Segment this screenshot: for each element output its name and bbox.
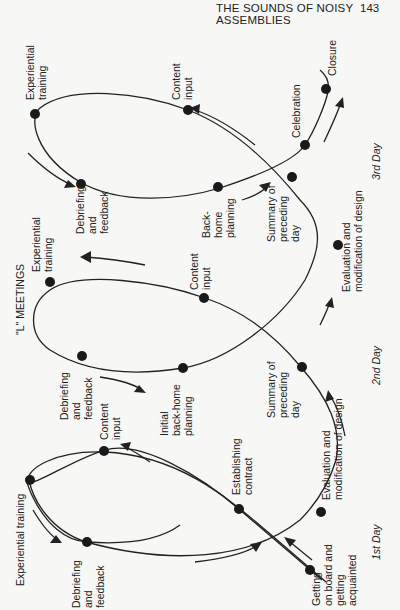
stage-dot bbox=[213, 182, 223, 192]
svg-text:and: and bbox=[86, 216, 98, 234]
stage-label-evaluation-2: Evaluation and modification of design bbox=[320, 398, 344, 500]
stage-dots bbox=[25, 84, 343, 575]
stage-label-experiential-training-2: Experiential training bbox=[30, 217, 54, 272]
flow-arrows bbox=[28, 97, 345, 562]
stage-dot bbox=[234, 504, 244, 514]
stage-label-closure: Closure bbox=[326, 40, 338, 76]
stage-label-experiential-training-3: Experiential training bbox=[24, 45, 48, 100]
svg-text:contract: contract bbox=[242, 458, 254, 495]
stage-dot bbox=[321, 84, 331, 94]
stage-dot bbox=[287, 172, 297, 182]
svg-text:day: day bbox=[289, 400, 301, 418]
svg-text:Experiential training: Experiential training bbox=[14, 494, 26, 586]
svg-text:Establishing: Establishing bbox=[230, 438, 242, 495]
arrow-head-icon bbox=[50, 535, 62, 543]
arrow-head-icon bbox=[250, 542, 262, 552]
arrow-icon bbox=[324, 102, 341, 142]
stage-dot bbox=[199, 293, 209, 303]
svg-text:Celebration: Celebration bbox=[290, 84, 302, 138]
stage-label-experiential-training-1: Experiential training bbox=[14, 494, 26, 586]
svg-text:modification of design: modification of design bbox=[352, 190, 364, 292]
svg-text:preceding: preceding bbox=[277, 372, 289, 418]
svg-text:and: and bbox=[70, 402, 82, 420]
arrow-icon bbox=[195, 110, 255, 145]
stage-label-content-input-1: Content input bbox=[98, 403, 122, 440]
l-meetings-diagram: "L" MEETINGS 1st Day 2nd Day 3rd Day Get… bbox=[0, 0, 400, 610]
svg-text:feedback: feedback bbox=[82, 377, 94, 420]
svg-text:feedback: feedback bbox=[94, 565, 106, 608]
stage-label-establishing-contract: Establishing contract bbox=[230, 438, 254, 495]
svg-text:training: training bbox=[42, 237, 54, 272]
svg-text:input: input bbox=[200, 267, 212, 290]
arrow-icon bbox=[195, 545, 258, 562]
svg-text:Getting: Getting bbox=[310, 572, 322, 606]
svg-text:and: and bbox=[82, 590, 94, 608]
svg-text:input: input bbox=[182, 77, 194, 100]
svg-text:input: input bbox=[110, 417, 122, 440]
arrow-head-icon bbox=[80, 251, 91, 263]
svg-text:Experiential: Experiential bbox=[24, 45, 36, 100]
stage-label-debriefing-2: Debriefing and feedback bbox=[58, 372, 94, 420]
stage-label-summary-2: Summary of preceding day bbox=[265, 361, 301, 418]
svg-text:training: training bbox=[36, 65, 48, 100]
svg-text:Debriefing: Debriefing bbox=[74, 186, 86, 234]
stage-dot bbox=[183, 105, 193, 115]
svg-text:day: day bbox=[289, 224, 301, 242]
svg-text:Summary of: Summary of bbox=[265, 361, 277, 418]
stage-label-content-input-3: Content input bbox=[170, 63, 194, 100]
arrow-icon bbox=[85, 257, 145, 265]
svg-text:Content: Content bbox=[170, 63, 182, 100]
stage-label-celebration: Celebration bbox=[290, 84, 302, 138]
stage-label-debriefing-1: Debriefing and feedback bbox=[70, 560, 106, 608]
stage-dot bbox=[99, 446, 109, 456]
stage-label-initial-back-home-planning: Initial back-home planning bbox=[158, 384, 194, 436]
stage-dot bbox=[82, 537, 92, 547]
arrow-icon bbox=[290, 542, 312, 560]
stage-dot bbox=[45, 277, 55, 287]
svg-text:Evaluation and: Evaluation and bbox=[340, 222, 352, 292]
arrow-head-icon bbox=[325, 297, 334, 308]
svg-text:Experiential: Experiential bbox=[30, 217, 42, 272]
day-label-1: 1st Day bbox=[370, 524, 382, 560]
svg-text:Debriefing: Debriefing bbox=[58, 372, 70, 420]
svg-text:Back-: Back- bbox=[200, 211, 212, 238]
stage-dot bbox=[316, 507, 326, 517]
stage-label-back-home-planning: Back- home planning bbox=[200, 198, 236, 238]
svg-text:feedback: feedback bbox=[98, 191, 110, 234]
stage-dot bbox=[178, 363, 188, 373]
svg-text:on board and: on board and bbox=[322, 544, 334, 606]
svg-text:planning: planning bbox=[224, 198, 236, 238]
diagram-caption: "L" MEETINGS bbox=[14, 264, 26, 335]
svg-text:preceding: preceding bbox=[277, 196, 289, 242]
stage-dot bbox=[77, 351, 87, 361]
svg-text:home: home bbox=[212, 212, 224, 238]
stage-label-getting-on-board: Getting on board and getting acquainted bbox=[310, 544, 358, 606]
stage-dot bbox=[30, 109, 40, 119]
svg-text:Content: Content bbox=[188, 253, 200, 290]
stage-label-debriefing-3: Debriefing and feedback bbox=[74, 186, 110, 234]
stage-label-evaluation-3: Evaluation and modification of design bbox=[340, 190, 364, 292]
stage-dot bbox=[300, 140, 310, 150]
day-label-2: 2nd Day bbox=[370, 345, 382, 386]
svg-text:back-home: back-home bbox=[170, 384, 182, 436]
stage-label-content-input-2: Content input bbox=[188, 253, 212, 290]
stage-dot bbox=[297, 362, 307, 372]
svg-text:Closure: Closure bbox=[326, 40, 338, 76]
svg-text:Evaluation and: Evaluation and bbox=[320, 430, 332, 500]
arrow-head-icon bbox=[335, 97, 344, 108]
svg-text:Summary of: Summary of bbox=[265, 185, 277, 242]
arrow-icon bbox=[100, 377, 142, 390]
svg-text:modification of design: modification of design bbox=[332, 398, 344, 500]
day-label-3: 3rd Day bbox=[370, 142, 382, 180]
svg-text:planning: planning bbox=[182, 396, 194, 436]
svg-text:getting: getting bbox=[334, 574, 346, 606]
svg-text:Debriefing: Debriefing bbox=[70, 560, 82, 608]
stage-dot bbox=[25, 475, 35, 485]
svg-text:acquainted: acquainted bbox=[346, 554, 358, 606]
svg-text:Content: Content bbox=[98, 403, 110, 440]
svg-text:Initial: Initial bbox=[158, 411, 170, 436]
